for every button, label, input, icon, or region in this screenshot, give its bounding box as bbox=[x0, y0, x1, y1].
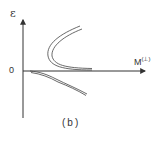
figure-caption: (b) bbox=[62, 118, 80, 128]
y-axis-label: ε bbox=[10, 8, 16, 19]
diagram-canvas bbox=[0, 0, 165, 142]
lower-branch-curve bbox=[30, 71, 87, 96]
x-axis-label-base: M bbox=[134, 57, 142, 67]
x-axis-label: M(⊥) bbox=[134, 56, 151, 67]
x-axis-label-superscript: (⊥) bbox=[142, 56, 151, 62]
upper-branch-curve bbox=[48, 26, 92, 70]
origin-label: 0 bbox=[9, 66, 14, 75]
